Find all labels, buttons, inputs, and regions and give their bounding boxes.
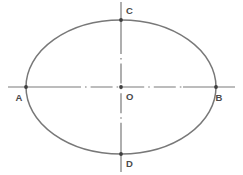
label-a: A (15, 92, 22, 103)
ellipse-figure: A B C D O (0, 0, 243, 175)
label-b: B (215, 92, 222, 103)
label-o: O (126, 91, 134, 102)
vertex-marker-d (119, 152, 123, 156)
center-marker-o (119, 85, 123, 89)
label-d: D (126, 158, 133, 169)
ellipse-diagram-canvas: A B C D O (0, 0, 243, 175)
label-c: C (126, 5, 133, 16)
vertex-marker-b (214, 85, 218, 89)
vertex-marker-c (119, 18, 123, 22)
vertex-marker-a (24, 85, 28, 89)
